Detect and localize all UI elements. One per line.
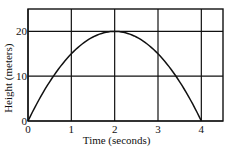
gridlines [28, 9, 223, 121]
y-tick-label: 0 [22, 115, 28, 127]
x-tick-label: 4 [199, 123, 205, 135]
x-axis-label: Time (seconds) [83, 134, 151, 147]
y-tick-labels: 01020 [16, 25, 28, 127]
plot-frame [28, 9, 223, 121]
x-tick-label: 3 [155, 123, 161, 135]
y-axis-label: Height (meters) [2, 43, 15, 113]
y-tick-label: 10 [16, 70, 28, 82]
y-tick-label: 20 [16, 25, 28, 37]
chart: 01234 01020 Time (seconds) Height (meter… [0, 0, 229, 147]
x-tick-label: 1 [69, 123, 75, 135]
